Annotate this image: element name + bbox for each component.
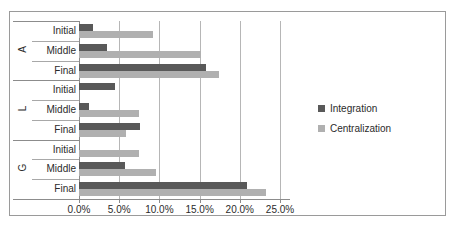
bar-centralization [79, 150, 139, 157]
row-label-g-initial: Initial [53, 140, 76, 160]
bar-centralization [79, 110, 139, 117]
x-tick-label-100: 10.0% [145, 204, 173, 215]
x-tick-label-50: 5.0% [108, 204, 131, 215]
chart-frame: ALG InitialMiddleFinalInitialMiddleFinal… [9, 11, 446, 216]
bar-integration [79, 64, 206, 71]
x-axis-line [45, 199, 290, 200]
row-label-l-final: Final [54, 120, 76, 140]
plot-area [79, 21, 280, 199]
bar-centralization [79, 130, 126, 137]
row-label-l-initial: Initial [53, 80, 76, 100]
legend-label: Integration [330, 103, 377, 114]
x-tick-label-00: 0.0% [68, 204, 91, 215]
x-tick [240, 199, 241, 203]
bar-integration [79, 123, 140, 130]
bar-centralization [79, 71, 219, 78]
group-label-l: L [17, 99, 28, 118]
bar-centralization [79, 31, 153, 38]
group-separator [13, 80, 79, 81]
gridline-200 [240, 21, 241, 199]
bar-integration [79, 83, 115, 90]
x-tick-label-150: 15.0% [185, 204, 213, 215]
row-label-l-middle: Middle [47, 100, 76, 120]
row-label-a-middle: Middle [47, 41, 76, 61]
group-separator [13, 21, 79, 22]
x-tick [159, 199, 160, 203]
group-label-g: G [17, 158, 28, 177]
legend-swatch-centralization-icon [318, 125, 325, 132]
row-label-a-final: Final [54, 61, 76, 81]
gridline-150 [200, 21, 201, 199]
x-tick [200, 199, 201, 203]
bar-integration [79, 24, 93, 31]
bar-centralization [79, 169, 156, 176]
legend-label: Centralization [330, 123, 391, 134]
legend-item-integration: Integration [318, 100, 438, 117]
group-separator [13, 199, 79, 200]
row-label-a-initial: Initial [53, 21, 76, 41]
bar-centralization [79, 51, 201, 58]
bar-integration [79, 44, 107, 51]
group-separator [13, 140, 79, 141]
row-label-column: InitialMiddleFinalInitialMiddleFinalInit… [32, 21, 79, 199]
bar-integration [79, 162, 125, 169]
bar-integration [79, 103, 89, 110]
x-tick-label-250: 25.0% [266, 204, 294, 215]
x-tick-label-200: 20.0% [226, 204, 254, 215]
legend-item-centralization: Centralization [318, 120, 438, 137]
row-label-g-final: Final [54, 179, 76, 199]
legend-swatch-integration-icon [318, 105, 325, 112]
gridline-250 [280, 21, 281, 199]
x-tick [79, 199, 80, 203]
bar-centralization [79, 189, 266, 196]
row-label-g-middle: Middle [47, 159, 76, 179]
gridline-100 [159, 21, 160, 199]
chart-legend: IntegrationCentralization [318, 100, 438, 140]
x-tick [119, 199, 120, 203]
group-label-a: A [17, 40, 28, 59]
x-tick [280, 199, 281, 203]
bar-integration [79, 182, 247, 189]
group-label-column: ALG [13, 21, 32, 199]
